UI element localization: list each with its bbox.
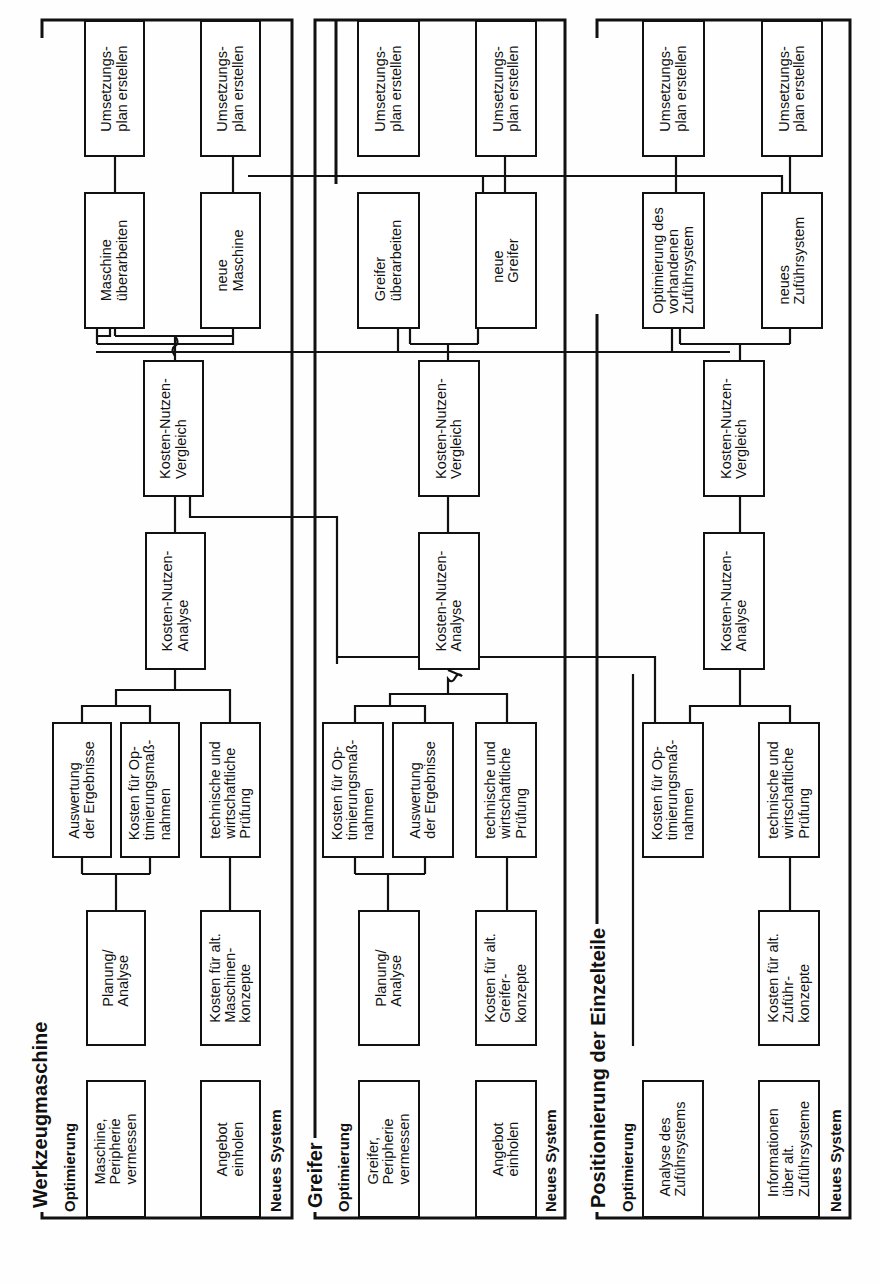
box-greifer-peripherie-vermessen: Greifer, Peripherie vermessen — [358, 1080, 420, 1218]
box-technische-wirtschaftliche-pruefung: technische und wirtschaftliche Prüfung — [758, 722, 820, 858]
panel-title-positionierung: Positionierung der Einzelteile — [588, 924, 608, 1212]
box-greifer-ueberarbeiten: Greifer überarbeiten — [357, 192, 420, 329]
box-umsetzungsplan-2: Umsetzungs- plan erstellen — [475, 20, 537, 157]
box-maschine-peripherie-vermessen: Maschine, Peripherie vermessen — [86, 1080, 146, 1218]
box-maschine-ueberarbeiten: Maschine überarbeiten — [84, 192, 145, 329]
box-optimierung-vorhandenes-zufuehrsystem: Optimierung des vorhandenen Zuführsystem — [642, 192, 705, 329]
lane-label-optimierung: Optimierung — [62, 1123, 77, 1212]
box-kosten-nutzen-analyse: Kosten-Nutzen- Analyse — [703, 532, 765, 670]
lane-label-neues-system: Neues System — [828, 1109, 843, 1212]
panel-title-werkzeugmaschine: Werkzeugmaschine — [30, 1018, 50, 1212]
box-kosten-nutzen-analyse: Kosten-Nutzen- Analyse — [418, 532, 480, 670]
box-auswertung-ergebnisse: Auswertung der Ergebnisse — [392, 722, 454, 858]
lane-label-neues-system: Neues System — [543, 1109, 558, 1212]
lane-label-optimierung: Optimierung — [620, 1123, 635, 1212]
box-technische-wirtschaftliche-pruefung: technische und wirtschaftliche Prüfung — [200, 722, 261, 858]
box-kosten-optimierungsmassnahmen: Kosten für Op- timierungsmaß- nahmen — [120, 722, 180, 858]
box-kosten-alt-maschinenkonzepte: Kosten für alt. Maschinen- konzepte — [200, 910, 261, 1046]
process-diagram: Werkzeugmaschine Optimierung Neues Syste… — [0, 0, 880, 1284]
box-neue-maschine: neue Maschine — [200, 192, 261, 329]
box-technische-wirtschaftliche-pruefung: technische und wirtschaftliche Prüfung — [475, 722, 537, 858]
box-kosten-alt-greiferkonzepte: Kosten für alt. Greifer- konzepte — [475, 910, 537, 1046]
box-kosten-nutzen-vergleich: Kosten-Nutzen- Vergleich — [703, 360, 765, 497]
lane-label-optimierung: Optimierung — [336, 1123, 351, 1212]
box-kosten-optimierungsmassnahmen: Kosten für Op- timierungsmaß- nahmen — [322, 722, 384, 858]
box-angebot-einholen: Angebot einholen — [475, 1080, 537, 1218]
box-angebot-einholen: Angebot einholen — [200, 1080, 261, 1218]
box-umsetzungsplan-1: Umsetzungs- plan erstellen — [84, 20, 145, 157]
box-neues-zufuehrsystem: neues Zuführsystem — [761, 192, 823, 329]
box-informationen-alt-zufuehrsysteme: Informationen über alt. Zuführsysteme — [758, 1080, 820, 1218]
box-umsetzungsplan-1: Umsetzungs- plan erstellen — [642, 20, 705, 157]
box-planung-analyse: Planung/ Analyse — [86, 910, 146, 1046]
box-kosten-nutzen-analyse: Kosten-Nutzen- Analyse — [145, 532, 206, 670]
box-umsetzungsplan-1: Umsetzungs- plan erstellen — [357, 20, 420, 157]
box-kosten-alt-zufuehrkonzepte: Kosten für alt. Zuführ- konzepte — [758, 910, 820, 1046]
lane-label-neues-system: Neues System — [268, 1109, 283, 1212]
box-planung-analyse: Planung/ Analyse — [358, 910, 420, 1046]
box-kosten-nutzen-vergleich: Kosten-Nutzen- Vergleich — [418, 360, 480, 497]
box-kosten-optimierungsmassnahmen: Kosten für Op- timierungsmaß- nahmen — [642, 722, 704, 858]
box-umsetzungsplan-2: Umsetzungs- plan erstellen — [200, 20, 261, 157]
box-neue-greifer: neue Greifer — [475, 192, 537, 329]
box-umsetzungsplan-2: Umsetzungs- plan erstellen — [761, 20, 823, 157]
panel-title-greifer: Greifer — [305, 1138, 325, 1212]
box-analyse-zufuehrsystem: Analyse des Zuführsystems — [642, 1080, 704, 1218]
box-kosten-nutzen-vergleich: Kosten-Nutzen- Vergleich — [143, 360, 204, 497]
box-auswertung-ergebnisse: Auswertung der Ergebnisse — [52, 722, 112, 858]
